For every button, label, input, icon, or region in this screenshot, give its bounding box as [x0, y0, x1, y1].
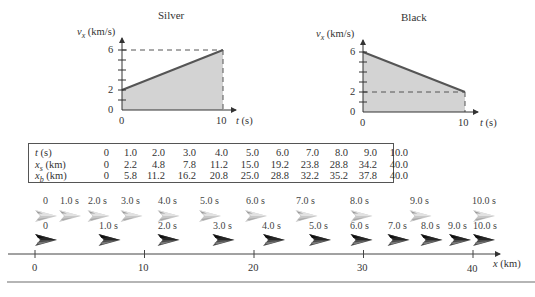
row-header-xb: xb (km) — [35, 170, 67, 184]
cell: 25.0 — [231, 170, 259, 181]
cell: 11.2 — [200, 159, 228, 170]
cell: 10.0 — [380, 147, 408, 158]
cell: 5.0 — [231, 147, 259, 158]
position-axis-label: x (km) — [493, 258, 521, 269]
cell: 4.8 — [137, 159, 165, 170]
time-label: 10.0 s — [472, 195, 496, 206]
cell: 7.0 — [291, 147, 319, 158]
cell: 3.0 — [168, 147, 196, 158]
time-label: 8.0 s — [421, 220, 440, 231]
time-label: 0 — [43, 195, 48, 206]
time-label: 8.0 s — [350, 195, 369, 206]
cell: 15.0 — [231, 159, 259, 170]
cell: 35.2 — [320, 170, 348, 181]
data-table: t (s) 0 1.0 2.0 3.0 4.0 5.0 6.0 7.0 8.0 … — [28, 143, 394, 183]
cell: 40.0 — [380, 170, 408, 181]
cell: 28.8 — [261, 170, 289, 181]
row-header-t: t (s) — [35, 147, 52, 158]
cell: 8.0 — [320, 147, 348, 158]
time-label: 1.0 s — [60, 195, 79, 206]
cell: 0 — [81, 170, 109, 181]
cell: 9.0 — [349, 147, 377, 158]
time-label: 10.0 s — [473, 220, 497, 231]
cell: 20.8 — [200, 170, 228, 181]
time-label: 5.0 s — [309, 220, 328, 231]
cell: 1.0 — [109, 147, 137, 158]
time-label: 9.0 s — [448, 220, 467, 231]
time-label: 6.0 s — [350, 220, 369, 231]
time-label: 1.0 s — [99, 220, 118, 231]
axis-tick-label: 10 — [138, 262, 149, 273]
black-jets — [35, 234, 495, 246]
time-label: 7.0 s — [296, 195, 315, 206]
time-label: 5.0 s — [200, 195, 219, 206]
time-label: 2.0 s — [158, 220, 177, 231]
axis-tick-label: 30 — [357, 262, 368, 273]
axis-tick-label: 0 — [32, 262, 37, 273]
time-label: 4.0 s — [262, 220, 281, 231]
cell: 4.0 — [200, 147, 228, 158]
time-label: 9.0 s — [410, 195, 429, 206]
cell: 0 — [81, 159, 109, 170]
cell: 19.2 — [261, 159, 289, 170]
cell: 6.0 — [261, 147, 289, 158]
time-label: 4.0 s — [158, 195, 177, 206]
time-label: 2.0 s — [88, 195, 107, 206]
table-row-xb: xb (km) 0 5.8 11.2 16.2 20.8 25.0 28.8 3… — [29, 170, 393, 183]
cell: 5.8 — [109, 170, 137, 181]
cell: 2.0 — [137, 147, 165, 158]
time-label: 6.0 s — [246, 195, 265, 206]
cell: 11.2 — [137, 170, 165, 181]
bottom-divider — [7, 281, 535, 283]
cell: 40.0 — [380, 159, 408, 170]
cell: 23.8 — [291, 159, 319, 170]
cell: 16.2 — [168, 170, 196, 181]
time-label: 7.0 s — [388, 220, 407, 231]
axis-tick-label: 20 — [248, 262, 259, 273]
cell: 28.8 — [320, 159, 348, 170]
axis-tick-label: 40 — [467, 263, 478, 274]
cell: 0 — [81, 147, 109, 158]
black-area — [363, 52, 465, 112]
cell: 2.2 — [109, 159, 137, 170]
time-label: 3.0 s — [121, 195, 140, 206]
cell: 34.2 — [349, 159, 377, 170]
cell: 32.2 — [291, 170, 319, 181]
time-label: 3.0 s — [213, 220, 232, 231]
cell: 37.8 — [349, 170, 377, 181]
time-label: 0 — [43, 220, 48, 231]
silver-area — [122, 50, 223, 110]
cell: 7.8 — [168, 159, 196, 170]
